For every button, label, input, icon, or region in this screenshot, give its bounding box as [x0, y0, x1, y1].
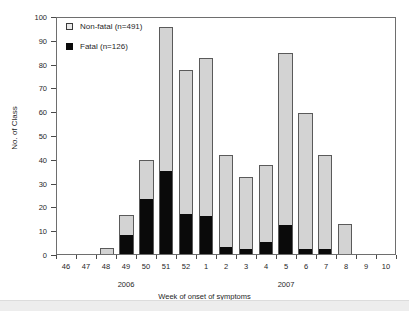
x-axis-tick: [276, 255, 277, 259]
legend-item[interactable]: Non-fatal (n=491): [66, 22, 142, 31]
x-axis-tick-label: 9: [356, 262, 376, 274]
stacked-bar[interactable]: [219, 155, 233, 254]
bar-segment-nonfatal: [160, 28, 172, 171]
bar-slot: [57, 18, 77, 254]
stacked-bar[interactable]: [239, 177, 253, 254]
bar-segment-nonfatal: [319, 156, 331, 249]
x-axis-tick: [296, 255, 297, 259]
stacked-bar[interactable]: [259, 165, 273, 254]
x-axis-tick-label: 7: [316, 262, 336, 274]
stacked-bar[interactable]: [159, 27, 173, 254]
bar-slot: [355, 18, 375, 254]
x-axis-tick: [56, 255, 57, 259]
stacked-bar[interactable]: [338, 224, 352, 254]
footer-band: [0, 300, 409, 311]
chart-legend: Non-fatal (n=491)Fatal (n=126): [66, 22, 142, 51]
x-axis-tick-label: 10: [376, 262, 396, 274]
bar-segment-fatal: [180, 214, 192, 254]
bar-segment-nonfatal: [299, 114, 311, 250]
x-axis-tick: [356, 255, 357, 259]
x-axis-tick-label: 47: [76, 262, 96, 274]
bar-slot: [216, 18, 236, 254]
bar-segment-nonfatal: [279, 54, 291, 225]
stacked-bar[interactable]: [318, 155, 332, 254]
legend-item[interactable]: Fatal (n=126): [66, 42, 142, 51]
bar-segment-nonfatal: [180, 71, 192, 214]
bar-slot: [296, 18, 316, 254]
bar-segment-nonfatal: [101, 249, 113, 254]
x-axis-tick: [396, 255, 397, 259]
bar-slot: [117, 18, 137, 254]
bar-segment-nonfatal: [120, 216, 132, 235]
y-axis-tick-label: 60: [17, 108, 47, 117]
stacked-bar[interactable]: [179, 70, 193, 254]
bar-slot: [276, 18, 296, 254]
bar-segment-nonfatal: [240, 178, 252, 249]
bar-segment-nonfatal: [140, 161, 152, 199]
x-axis-tick: [136, 255, 137, 259]
bar-segment-nonfatal: [220, 156, 232, 246]
bar-segment-fatal: [240, 249, 252, 254]
stacked-bar[interactable]: [139, 160, 153, 254]
bar-segment-fatal: [260, 242, 272, 254]
x-axis-tick: [336, 255, 337, 259]
x-axis-tick-label: 52: [176, 262, 196, 274]
x-axis-tick-label: 6: [296, 262, 316, 274]
stacked-bar[interactable]: [119, 215, 133, 254]
x-axis-tick: [176, 255, 177, 259]
x-axis-tick-label: 49: [116, 262, 136, 274]
y-axis-tick-label: 90: [17, 36, 47, 45]
chart-figure: No. of Class 0102030405060708090100 Non-…: [0, 0, 409, 311]
x-axis-tick-label: 51: [156, 262, 176, 274]
x-axis-tick-label: 5: [276, 262, 296, 274]
legend-swatch-nonfatal: [66, 23, 73, 30]
bar-segment-nonfatal: [339, 225, 351, 254]
stacked-bar[interactable]: [278, 53, 292, 254]
y-axis-tick-label: 100: [17, 13, 47, 22]
x-axis-tick-label: 46: [56, 262, 76, 274]
x-axis-tick: [156, 255, 157, 259]
stacked-bar[interactable]: [298, 113, 312, 254]
bar-slot: [137, 18, 157, 254]
stacked-bar[interactable]: [199, 58, 213, 254]
x-axis-tick: [376, 255, 377, 259]
y-axis-tick-label: 50: [17, 132, 47, 141]
bar-segment-fatal: [299, 249, 311, 254]
y-axis-tick-label: 30: [17, 179, 47, 188]
x-axis-tick-label: 1: [196, 262, 216, 274]
bar-segment-fatal: [160, 171, 172, 254]
x-axis-tick: [116, 255, 117, 259]
x-axis-tick-label: 3: [236, 262, 256, 274]
y-axis-title-wrapper: No. of Class: [12, 0, 13, 311]
x-axis-tick: [76, 255, 77, 259]
y-axis-tick-label: 10: [17, 227, 47, 236]
bar-slot: [256, 18, 276, 254]
x-axis-tick-labels: 4647484950515212345678910: [56, 262, 396, 274]
bar-segment-nonfatal: [260, 166, 272, 242]
x-axis-year-label: 2006: [118, 280, 135, 289]
bar-slot: [375, 18, 395, 254]
bar-slot: [77, 18, 97, 254]
y-axis-tick-label: 20: [17, 203, 47, 212]
x-axis-tick: [216, 255, 217, 259]
x-axis-tick-label: 4: [256, 262, 276, 274]
stacked-bar[interactable]: [100, 248, 114, 254]
bar-segment-fatal: [319, 249, 331, 254]
bar-segment-fatal: [120, 235, 132, 254]
bar-slot: [156, 18, 176, 254]
x-axis-tick: [256, 255, 257, 259]
bar-segment-fatal: [140, 199, 152, 254]
bar-segment-nonfatal: [200, 59, 212, 216]
y-axis-tick-label: 40: [17, 155, 47, 164]
bar-segment-fatal: [220, 247, 232, 254]
bar-series-container: [57, 18, 395, 254]
bar-slot: [236, 18, 256, 254]
bar-segment-fatal: [200, 216, 212, 254]
legend-swatch-fatal: [66, 43, 73, 50]
x-axis-tick: [316, 255, 317, 259]
x-axis-year-label: 2007: [278, 280, 295, 289]
bar-slot: [97, 18, 117, 254]
legend-label: Non-fatal (n=491): [80, 22, 142, 31]
x-axis-tick-label: 50: [136, 262, 156, 274]
x-axis-tick: [196, 255, 197, 259]
